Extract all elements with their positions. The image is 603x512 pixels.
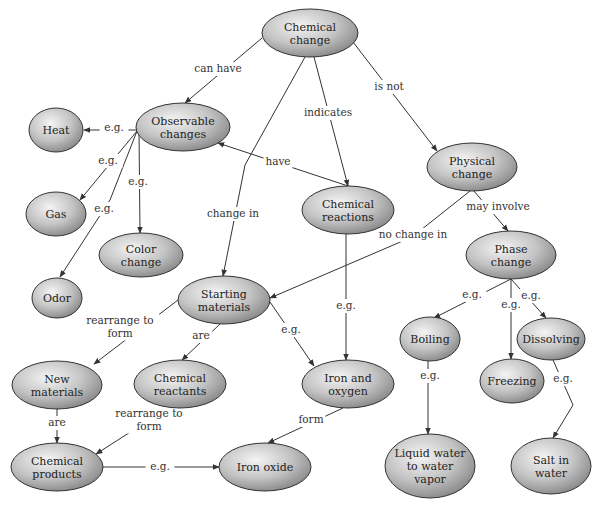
node-label: Heat	[42, 124, 70, 137]
node-label: Freezing	[487, 375, 536, 388]
edge-label: are	[190, 329, 213, 343]
node-label: Chemical	[154, 372, 207, 385]
edge-label: rearrange toform	[81, 314, 159, 341]
node-new-materials: Newmaterials	[12, 361, 102, 409]
edge-label-text: rearrange to	[86, 314, 153, 326]
edge-label: e.g.	[90, 202, 119, 216]
edge-label: e.g.	[332, 299, 361, 313]
node-iron-and-oxygen: Iron andoxygen	[302, 360, 394, 408]
edge-label: e.g.	[146, 460, 175, 474]
node-label: change	[491, 256, 531, 269]
edge-label: e.g.	[277, 323, 306, 337]
edge-label-text: e.g.	[150, 460, 170, 472]
edge-label-text: e.g.	[98, 154, 118, 166]
edge-label: e.g.	[458, 288, 487, 302]
edge-label: change in	[203, 207, 263, 221]
edge-chemical-change-to-chemical-reactions	[314, 57, 348, 186]
node-label: materials	[31, 386, 84, 399]
node-label: Boiling	[410, 333, 449, 346]
node-phase-change: Phasechange	[466, 231, 556, 279]
edge-label-text: form	[107, 327, 132, 339]
node-label: change	[290, 34, 330, 47]
edge-label-text: have	[265, 155, 290, 167]
node-label: Starting	[201, 288, 247, 301]
node-heat: Heat	[29, 108, 83, 152]
node-label: products	[32, 468, 82, 481]
node-label: to water	[407, 460, 454, 473]
node-liquid-water: Liquid waterto watervapor	[385, 434, 475, 498]
node-freezing: Freezing	[480, 359, 544, 403]
node-chemical-reactants: Chemicalreactants	[134, 360, 226, 408]
edge-label-text: are	[48, 416, 66, 428]
edge-label-text: change in	[207, 207, 259, 219]
node-chemical-reactions: Chemicalreactions	[302, 186, 394, 234]
node-label: Dissolving	[522, 333, 580, 346]
node-label: reactants	[154, 385, 207, 398]
edge-label-text: e.g.	[94, 202, 114, 214]
edge-label: e.g.	[124, 175, 153, 189]
node-dissolving: Dissolving	[517, 318, 585, 360]
edge-label-text: are	[192, 329, 210, 341]
node-label: change	[121, 256, 161, 269]
node-label: Odor	[43, 292, 72, 305]
edge-label-text: indicates	[304, 106, 352, 118]
node-label: Liquid water	[394, 447, 466, 460]
edge-label-text: e.g.	[420, 369, 440, 381]
node-observable-changes: Observablechanges	[136, 103, 230, 151]
node-label: Color	[126, 243, 157, 256]
edge-label-text: e.g.	[104, 121, 124, 133]
edge-label-text: e.g.	[336, 299, 356, 311]
edge-label-text: no change in	[379, 228, 448, 240]
edge-label: e.g.	[100, 121, 129, 135]
edge-label-text: e.g.	[128, 175, 148, 187]
edge-label-text: form	[136, 420, 161, 432]
edge-label-text: e.g.	[553, 372, 573, 384]
node-starting-materials: Startingmaterials	[178, 276, 270, 324]
edge-label: may involve	[462, 200, 534, 214]
node-label: Iron and	[324, 372, 372, 385]
edge-label: can have	[191, 62, 245, 76]
edge-label-text: rearrange to	[115, 407, 182, 419]
node-label: Gas	[46, 208, 67, 221]
node-label: changes	[160, 128, 206, 141]
edge-label: rearrange toform	[110, 407, 188, 434]
edge-label-text: e.g.	[521, 289, 541, 301]
edge-label: is not	[368, 80, 409, 94]
node-gas: Gas	[26, 192, 86, 236]
edge-label: form	[297, 413, 326, 427]
edge-label-text: e.g.	[281, 323, 301, 335]
node-salt-in-water: Salt inwater	[511, 438, 591, 494]
node-label: Physical	[449, 155, 496, 168]
node-boiling: Boiling	[400, 317, 460, 361]
node-label: Chemical	[284, 21, 337, 34]
edge-label: have	[264, 155, 293, 169]
edge-label: no change in	[374, 228, 452, 242]
node-label: vapor	[413, 473, 446, 486]
node-label: change	[452, 168, 492, 181]
node-label: Iron oxide	[237, 461, 294, 474]
node-label: materials	[198, 301, 251, 314]
node-label: Observable	[151, 115, 214, 128]
edge-label-text: e.g.	[462, 288, 482, 300]
node-label: Chemical	[31, 455, 84, 468]
node-color-change: Colorchange	[99, 233, 183, 277]
node-label: Salt in	[533, 454, 569, 467]
node-odor: Odor	[32, 278, 82, 318]
node-label: New	[44, 373, 70, 386]
node-label: Phase	[494, 243, 527, 256]
node-label: Chemical	[322, 198, 375, 211]
concept-map: can havechange inindicatesis note.g.e.g.…	[0, 0, 603, 512]
node-label: water	[535, 467, 568, 480]
edge-label: e.g.	[416, 369, 445, 383]
node-iron-oxide: Iron oxide	[219, 443, 311, 491]
node-chemical-change: Chemicalchange	[262, 9, 358, 57]
edge-label: are	[46, 416, 69, 430]
edge-label: e.g.	[94, 154, 123, 168]
edge-chemical-change-to-physical-change	[353, 42, 437, 151]
edge-label: e.g.	[549, 372, 578, 386]
edge-label-text: is not	[374, 80, 404, 92]
node-physical-change: Physicalchange	[427, 143, 517, 191]
node-chemical-products: Chemicalproducts	[11, 443, 103, 491]
node-label: oxygen	[328, 385, 368, 398]
edge-label: indicates	[298, 106, 358, 120]
